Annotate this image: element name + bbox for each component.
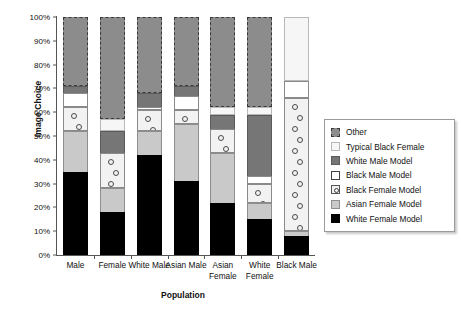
legend-swatch-icon xyxy=(331,156,340,165)
bar-segment-black-female xyxy=(63,107,88,131)
bar-female xyxy=(100,17,125,255)
y-tick-mark xyxy=(53,112,57,113)
bar-segment-other xyxy=(100,17,125,119)
bar-segment-black-male xyxy=(174,96,199,110)
legend-item: Other xyxy=(331,125,450,139)
legend-swatch-icon xyxy=(331,214,340,223)
circle-pattern-icon xyxy=(285,99,308,230)
bar-segment-asian-female xyxy=(174,124,199,181)
x-tick-mark xyxy=(204,255,205,259)
bar-segment-white-male xyxy=(137,93,162,107)
x-tick-mark xyxy=(94,255,95,259)
bar-segment-white-male xyxy=(63,86,88,93)
x-tick-mark xyxy=(241,255,242,259)
legend-item: Typical Black Female xyxy=(331,139,450,153)
x-axis-title: Population xyxy=(52,290,314,300)
bar-segment-other xyxy=(174,17,199,86)
legend-item-label: White Female Model xyxy=(346,214,422,224)
bar-segment-white-male xyxy=(210,115,235,129)
bar-segment-black-male xyxy=(137,107,162,109)
bar-white-female xyxy=(247,17,272,255)
circle-pattern-icon xyxy=(211,130,234,152)
legend-item: White Female Model xyxy=(331,211,450,225)
bar-segment-white-female xyxy=(174,181,199,255)
bar-segment-black-female xyxy=(174,110,199,124)
bar-white-male xyxy=(137,17,162,255)
legend-item: Asian Female Model xyxy=(331,197,450,211)
bar-segment-white-female xyxy=(247,219,272,255)
bar-segment-asian-female xyxy=(137,131,162,155)
bar-segment-typical-black-female xyxy=(247,107,272,114)
y-tick-mark xyxy=(53,136,57,137)
circle-pattern-icon xyxy=(138,111,161,130)
circle-pattern-icon xyxy=(175,111,198,123)
bar-segment-other xyxy=(63,17,88,86)
y-tick-mark xyxy=(53,255,57,256)
circle-pattern-icon xyxy=(101,154,124,188)
legend-item: White Male Model xyxy=(331,154,450,168)
bar-segment-black-female xyxy=(284,98,309,231)
bar-black-male xyxy=(284,17,309,255)
bar-segment-white-male xyxy=(100,131,125,152)
bar-segment-asian-female xyxy=(63,131,88,171)
y-tick-mark xyxy=(53,40,57,41)
y-tick-mark xyxy=(53,183,57,184)
bar-male xyxy=(63,17,88,255)
bar-asian-male xyxy=(174,17,199,255)
legend-item: Black Female Model xyxy=(331,183,450,197)
stacked-bar-chart: Image Choice Population 0%10%20%30%40%50… xyxy=(0,0,461,314)
plot-area: 0%10%20%30%40%50%60%70%80%90%100% xyxy=(57,17,315,255)
bar-segment-black-male xyxy=(247,176,272,183)
circle-pattern-icon xyxy=(248,185,271,202)
y-tick-mark xyxy=(53,159,57,160)
bar-segment-black-female xyxy=(137,110,162,131)
legend-swatch-icon xyxy=(331,185,340,194)
bar-segment-typical-black-female xyxy=(100,119,125,131)
bar-asian-female xyxy=(210,17,235,255)
x-axis-label: Black Male xyxy=(274,260,320,271)
x-tick-mark xyxy=(168,255,169,259)
legend-item-label: Black Female Model xyxy=(346,185,421,195)
bar-segment-black-male xyxy=(284,81,309,98)
legend-swatch-icon xyxy=(331,128,340,137)
bar-segment-asian-female xyxy=(284,231,309,236)
bar-segment-black-female xyxy=(210,129,235,153)
bar-segment-white-female xyxy=(63,172,88,255)
bar-segment-white-female xyxy=(284,236,309,255)
x-tick-mark xyxy=(131,255,132,259)
legend-item-label: Black Male Model xyxy=(346,170,411,180)
circle-pattern-icon xyxy=(64,108,87,130)
y-tick-mark xyxy=(53,64,57,65)
x-axis-line xyxy=(56,255,315,256)
bar-segment-typical-black-female xyxy=(210,107,235,114)
bar-segment-white-male xyxy=(174,86,199,96)
legend-swatch-icon xyxy=(331,200,340,209)
y-tick-mark xyxy=(53,88,57,89)
legend-item-label: Other xyxy=(346,127,367,137)
legend-item: Black Male Model xyxy=(331,168,450,182)
legend-swatch-icon xyxy=(331,171,340,180)
bar-segment-other xyxy=(210,17,235,107)
chart-legend: OtherTypical Black FemaleWhite Male Mode… xyxy=(324,119,455,232)
bar-segment-typical-black-female xyxy=(284,17,309,81)
bar-segment-asian-female xyxy=(210,153,235,203)
x-tick-mark xyxy=(278,255,279,259)
legend-item-label: White Male Model xyxy=(346,156,412,166)
bar-segment-asian-female xyxy=(247,203,272,220)
bar-segment-asian-female xyxy=(100,188,125,212)
legend-item-label: Typical Black Female xyxy=(346,142,424,152)
y-tick-mark xyxy=(53,207,57,208)
bar-segment-white-female xyxy=(100,212,125,255)
legend-item-label: Asian Female Model xyxy=(346,199,422,209)
bar-segment-other xyxy=(247,17,272,107)
y-tick-mark xyxy=(53,231,57,232)
bar-segment-black-female xyxy=(247,184,272,203)
bar-segment-white-female xyxy=(210,203,235,255)
legend-swatch-icon xyxy=(331,142,340,151)
y-tick-mark xyxy=(53,17,57,18)
bar-segment-black-male xyxy=(63,93,88,107)
bar-segment-other xyxy=(137,17,162,93)
bar-segment-white-female xyxy=(137,155,162,255)
bar-segment-black-female xyxy=(100,153,125,189)
bar-segment-white-male xyxy=(247,115,272,177)
